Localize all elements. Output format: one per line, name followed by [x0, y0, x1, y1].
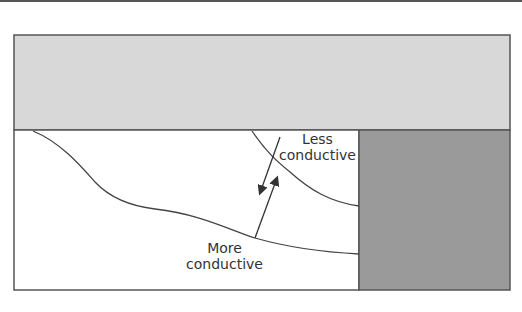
less-conductive-label: Less conductive: [275, 131, 360, 163]
upper-layer: [14, 35, 510, 130]
more-conductive-label: More conductive: [182, 240, 267, 272]
right-block: [359, 130, 510, 290]
